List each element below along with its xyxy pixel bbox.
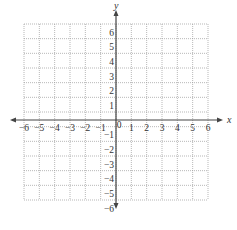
x-tick-label: −6 [19, 123, 29, 133]
x-tick-label: 4 [175, 123, 180, 133]
x-tick-label: −5 [34, 123, 44, 133]
y-tick-label: −4 [104, 174, 114, 184]
x-tick-label: −3 [65, 123, 75, 133]
y-tick-label: 5 [109, 42, 114, 52]
y-tick-label: 1 [109, 101, 114, 111]
y-tick-label: 3 [109, 72, 114, 82]
x-tick-label: 1 [129, 123, 134, 133]
y-tick-label: −3 [104, 160, 114, 170]
axes [10, 10, 223, 209]
y-tick-label: −2 [104, 145, 114, 155]
y-tick-label: 4 [109, 57, 114, 67]
coordinate-plane: −6−5−4−3−2−10123456654321−1−2−3−4−5−6 x … [0, 0, 237, 230]
x-tick-label: 5 [190, 123, 195, 133]
x-axis-right-arrow-icon [217, 118, 223, 123]
x-tick-label: 3 [160, 123, 165, 133]
y-axis-label: y [113, 0, 119, 11]
x-tick-label: 2 [144, 123, 149, 133]
y-tick-label: 2 [109, 86, 114, 96]
x-tick-label: −2 [80, 123, 90, 133]
y-axis-down-arrow-icon [114, 203, 119, 209]
x-axis-label: x [226, 114, 232, 125]
y-tick-label: −5 [104, 189, 114, 199]
y-tick-label: −6 [104, 204, 114, 214]
x-tick-label: 0 [117, 120, 122, 130]
x-axis-left-arrow-icon [10, 118, 16, 123]
x-tick-label: 6 [206, 123, 211, 133]
y-tick-label: 6 [109, 28, 114, 38]
y-tick-label: −1 [104, 130, 114, 140]
x-tick-label: −4 [50, 123, 60, 133]
